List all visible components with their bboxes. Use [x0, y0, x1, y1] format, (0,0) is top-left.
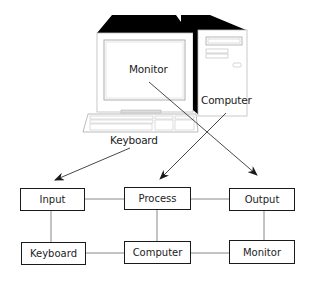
diagram: Monitor Computer Keyboard Input Process … [0, 0, 320, 284]
box-computer: Computer [124, 241, 191, 264]
illustration-label-computer: Computer [201, 94, 252, 106]
box-monitor: Monitor [229, 240, 295, 264]
box-input: Input [20, 188, 85, 211]
box-output: Output [229, 188, 295, 211]
illustration-label-monitor: Monitor [129, 63, 168, 75]
keyboard-shape [83, 110, 198, 132]
box-process: Process [124, 187, 191, 210]
box-keyboard: Keyboard [21, 242, 86, 265]
illustration-label-keyboard: Keyboard [110, 134, 158, 146]
arrow-keyboard-to-input [55, 148, 130, 180]
